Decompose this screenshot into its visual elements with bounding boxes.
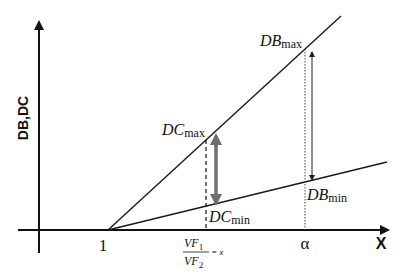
label-db-min: DBmin <box>306 186 347 205</box>
svg-text:= x: = x <box>211 247 223 257</box>
tick-alpha: α <box>301 234 310 253</box>
svg-text:VF2: VF2 <box>184 254 203 270</box>
x-axis-label: X <box>376 235 387 252</box>
svg-text:VF1: VF1 <box>184 236 203 252</box>
label-db-max: DBmax <box>259 32 302 51</box>
label-dc-min: DCmin <box>208 208 250 227</box>
tick-one: 1 <box>99 236 108 255</box>
y-axis-label: DB,DC <box>15 96 31 140</box>
label-dc-max: DCmax <box>161 121 205 140</box>
diagram-canvas: DB,DC X 1 α VF1 VF2 = x DBmax DBmin DCma… <box>0 0 400 276</box>
fraction-vf1-vf2: VF1 VF2 = x <box>183 236 223 270</box>
